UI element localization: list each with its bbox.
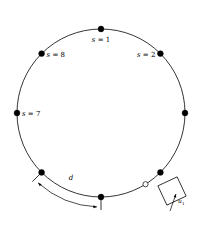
node-s3 (182, 110, 188, 116)
distance-tick (32, 172, 41, 181)
square-marker-label: u1 (178, 197, 185, 206)
node-s8-label: s = 8 (47, 51, 65, 59)
node-label-group: s = 1s = 2s = 7s = 8 (22, 36, 155, 118)
square-marker-group: u1 (158, 177, 186, 211)
node-s2-label: s = 2 (137, 51, 155, 59)
distance-label: d (69, 174, 74, 182)
node-s2 (157, 51, 163, 57)
distance-arrow (38, 183, 97, 207)
node-s8 (39, 51, 45, 57)
node-s7-label: s = 7 (22, 110, 40, 118)
figure-canvas: s = 1s = 2s = 7s = 8 d u1 (0, 0, 202, 226)
node-s1 (98, 26, 104, 32)
node-s7 (14, 110, 20, 116)
node-s1-label: s = 1 (92, 36, 110, 44)
distance-annotation-group: d (32, 172, 101, 210)
square-marker-arrow (170, 194, 176, 211)
circle-node-figure: s = 1s = 2s = 7s = 8 d u1 (0, 0, 202, 226)
open-node (143, 182, 148, 187)
node-s4 (157, 169, 163, 175)
